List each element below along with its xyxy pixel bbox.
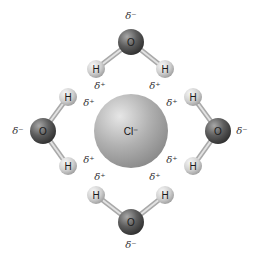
hydrogen-label: H (92, 64, 99, 75)
partial-positive-charge: δ⁺ (83, 154, 94, 165)
oxygen-label: O (127, 217, 135, 228)
oxygen-label: O (39, 126, 47, 137)
hydration-diagram: OHHOHHOHHOHH δ⁻δ⁺δ⁺δ⁻δ⁺δ⁺δ⁻δ⁺δ⁺δ⁻δ⁺δ⁺ Cl… (0, 0, 260, 263)
chloride-ion-label: Cl⁻ (124, 126, 138, 137)
hydrogen-label: H (189, 161, 196, 172)
hydrogen-label: H (64, 161, 71, 172)
partial-negative-charge: δ⁻ (125, 10, 136, 21)
hydrogen-label: H (64, 92, 71, 103)
oxygen-label: O (214, 126, 222, 137)
partial-positive-charge: δ⁺ (166, 97, 177, 108)
partial-positive-charge: δ⁺ (149, 171, 160, 182)
hydrogen-label: H (189, 92, 196, 103)
partial-negative-charge: δ⁻ (236, 125, 247, 136)
chloride-ion: Cl⁻ (94, 94, 168, 168)
oxygen-label: O (127, 37, 135, 48)
hydrogen-label: H (92, 190, 99, 201)
partial-positive-charge: δ⁺ (83, 97, 94, 108)
partial-negative-charge: δ⁻ (12, 125, 23, 136)
partial-positive-charge: δ⁺ (166, 154, 177, 165)
partial-negative-charge: δ⁻ (125, 239, 136, 250)
hydrogen-label: H (161, 64, 168, 75)
partial-positive-charge: δ⁺ (149, 80, 160, 91)
partial-positive-charge: δ⁺ (94, 171, 105, 182)
partial-positive-charge: δ⁺ (94, 80, 105, 91)
hydrogen-label: H (161, 190, 168, 201)
